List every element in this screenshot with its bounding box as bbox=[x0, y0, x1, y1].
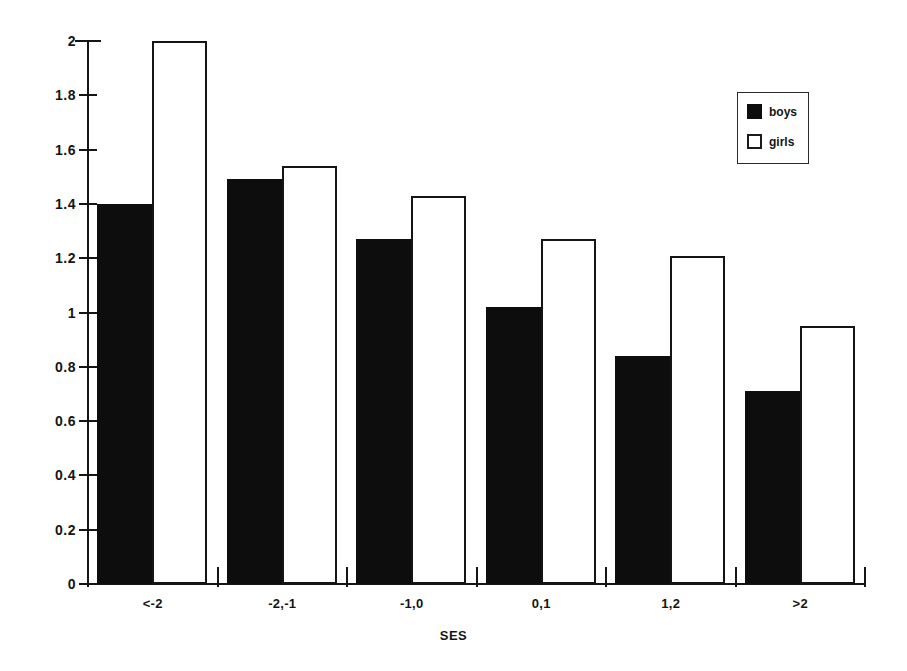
y-tick-label: 0 bbox=[30, 577, 76, 591]
x-tick-label--1,0: -1,0 bbox=[400, 596, 424, 611]
x-tick-mark bbox=[476, 567, 478, 587]
legend-item-boys: boys bbox=[747, 104, 797, 119]
x-tick-label->2: >2 bbox=[793, 596, 808, 611]
legend-label-boys: boys bbox=[769, 106, 797, 118]
x-tick-mark bbox=[87, 567, 89, 587]
y-tick-label: 0.8 bbox=[30, 360, 76, 374]
y-tick-label: 0.2 bbox=[30, 523, 76, 537]
bar-boys--1,0 bbox=[356, 239, 411, 584]
legend-swatch-girls-icon bbox=[747, 134, 762, 149]
bar-girls--1,0 bbox=[411, 196, 466, 584]
y-tick-label: 0.4 bbox=[30, 468, 76, 482]
x-tick-mark bbox=[735, 567, 737, 587]
x-tick-mark bbox=[605, 567, 607, 587]
y-tick-label: 2 bbox=[30, 34, 76, 48]
legend-label-girls: girls bbox=[769, 136, 794, 148]
y-tick-label: 1.8 bbox=[30, 88, 76, 102]
bar-boys->2 bbox=[745, 391, 800, 584]
bar-boys-1,2 bbox=[615, 356, 670, 584]
legend: boys girls bbox=[737, 92, 809, 164]
y-tick-label: 1.4 bbox=[30, 197, 76, 211]
bar-girls-0,1 bbox=[541, 239, 596, 584]
x-tick-mark bbox=[217, 567, 219, 587]
bar-boys-<-2 bbox=[97, 204, 152, 584]
x-tick-label-1,2: 1,2 bbox=[661, 596, 680, 611]
bar-girls-1,2 bbox=[670, 256, 725, 585]
x-tick-label--2,-1: -2,-1 bbox=[268, 596, 296, 611]
x-tick-mark bbox=[864, 567, 866, 587]
x-tick-mark bbox=[346, 567, 348, 587]
bar-girls-<-2 bbox=[152, 41, 207, 584]
x-axis-title: SES bbox=[0, 628, 907, 643]
legend-item-girls: girls bbox=[747, 134, 794, 149]
bar-chart: 00.20.40.60.811.21.41.61.82 <-2-2,-1-1,0… bbox=[0, 0, 907, 671]
y-tick-label: 0.6 bbox=[30, 414, 76, 428]
y-tick-label: 1.6 bbox=[30, 143, 76, 157]
y-tick-label: 1 bbox=[30, 306, 76, 320]
bar-boys-0,1 bbox=[486, 307, 541, 584]
x-tick-label-0,1: 0,1 bbox=[532, 596, 551, 611]
legend-swatch-boys-icon bbox=[747, 104, 762, 119]
bar-girls--2,-1 bbox=[282, 166, 337, 584]
bar-girls->2 bbox=[800, 326, 855, 584]
x-tick-label-<-2: <-2 bbox=[143, 596, 163, 611]
y-tick-label: 1.2 bbox=[30, 251, 76, 265]
bar-boys--2,-1 bbox=[227, 179, 282, 584]
